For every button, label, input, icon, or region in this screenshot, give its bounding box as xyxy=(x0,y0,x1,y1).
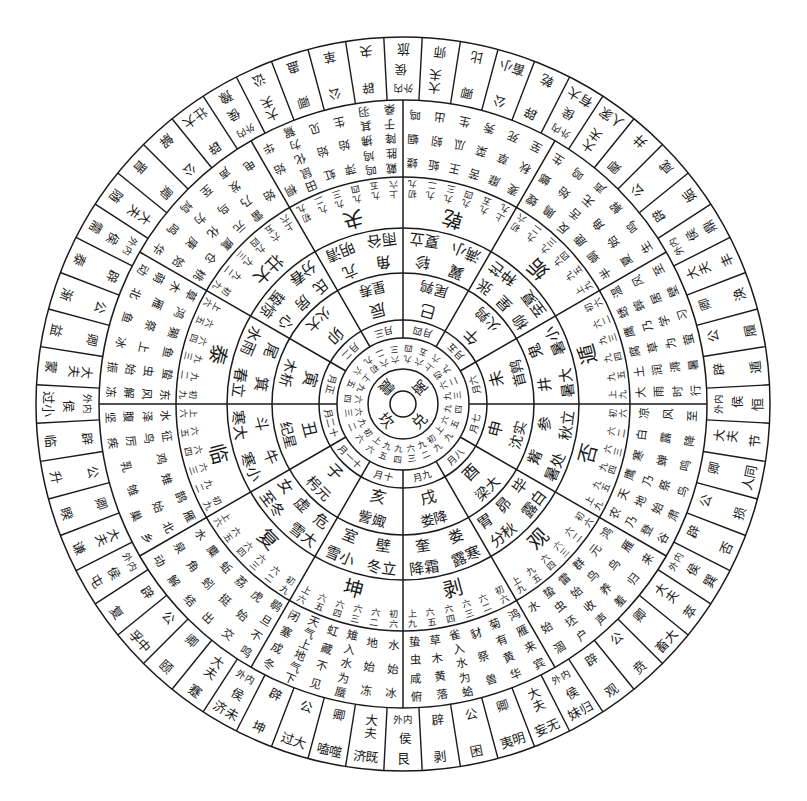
month-label: 二月 xyxy=(340,341,361,362)
hexagram-name: 坤 xyxy=(250,719,267,736)
rank-label: 卿 xyxy=(697,298,713,314)
hexagram-name: 巽 xyxy=(701,572,719,590)
rank-label: 辟 xyxy=(80,430,94,444)
solar-term-cell: 立夏 xyxy=(402,228,446,253)
line-position-label: 九三 xyxy=(443,392,465,403)
month-label: 九月 xyxy=(412,469,434,483)
inner-outer-tag: 外内 xyxy=(667,551,685,573)
rank-label: 侯 xyxy=(684,562,702,579)
hexagram-line-label: 六二 xyxy=(563,525,584,544)
earthly-branch: 丑 xyxy=(299,419,319,439)
hexagram-line-label: 六四 xyxy=(182,444,203,457)
hexagram-line-label: 六三 xyxy=(602,444,623,457)
inner-outer-tag: 外内 xyxy=(83,394,93,414)
pentad-text: 蛰虫始振 xyxy=(100,358,174,379)
solar-term-label: 谷雨 xyxy=(366,231,398,250)
sovereign-hexagram-name: 姤 xyxy=(524,255,552,283)
hexagram-line-label: 上六 xyxy=(295,584,312,606)
inner-outer-tag: 外内 xyxy=(714,394,724,414)
lunar-mansion-cell: 轸 xyxy=(412,250,435,274)
hexagram-line-label: 初九 xyxy=(278,574,296,596)
hexagram-line-label: 六四 xyxy=(331,598,346,620)
solar-term-cell: 谷雨 xyxy=(359,228,403,253)
rank-label: 公 xyxy=(706,331,721,346)
rank-label: 侯 xyxy=(397,63,410,76)
hexagram-name: 屯 xyxy=(87,572,105,590)
lunar-mansion-label: 娄 xyxy=(447,527,467,547)
month-label: 三月 xyxy=(373,324,395,338)
hexagram-line-label: 六五 xyxy=(193,314,215,330)
hexagram-name: 大壮 xyxy=(180,104,209,130)
rank-label: 大夫 xyxy=(67,363,94,378)
hexagram-name: 噬嗑 xyxy=(315,742,343,760)
pentad-text: 地始冻 xyxy=(357,637,378,710)
hexagram-line-label: 九五 xyxy=(591,478,613,494)
hexagram-line-cell: 初九 xyxy=(405,178,419,201)
hexagram-name: 讼 xyxy=(250,72,267,89)
hexagram-line-label: 九四 xyxy=(597,461,619,476)
lunar-mansion-label: 虚 xyxy=(291,495,312,516)
sovereign-hexagram-name: 坤 xyxy=(341,576,365,600)
sovereign-hexagram-name: 临 xyxy=(207,441,231,465)
line-position-label: 九四 xyxy=(391,444,402,466)
pentad-text: 白露降 xyxy=(636,429,709,450)
solar-term-label: 立冬 xyxy=(366,558,398,577)
hexagram-line-label: 初六 xyxy=(389,609,399,629)
hexagram-line-label: 六三 xyxy=(350,603,363,624)
hexagram-line-label: 六五 xyxy=(262,223,281,244)
pentad-cell: 蝼蝈鸣 xyxy=(404,102,424,176)
rank-label: 大夫 xyxy=(524,686,546,715)
hexagram-name: 泰 xyxy=(71,251,88,268)
hexagram-line-label: 六五 xyxy=(313,592,329,614)
rank-label: 大夫 xyxy=(93,525,122,547)
hexagram-line-label: 九二 xyxy=(222,263,243,282)
outer-hexagram-cell: 辟剥 xyxy=(418,707,458,770)
trigram-line-cell: 六三 xyxy=(389,340,404,366)
hexagram-name: 小过 xyxy=(42,391,55,417)
trigram-name: 坎 xyxy=(375,410,396,431)
lunar-mansion-label: 参 xyxy=(537,416,554,433)
rank-label: 辟 xyxy=(651,209,669,227)
hexagram-line-label: 九三 xyxy=(538,235,558,256)
hexagram-line-cell: 初六 xyxy=(387,608,401,631)
sovereign-hexagram-name: 复 xyxy=(254,525,282,553)
rank-label: 大夫 xyxy=(429,68,444,95)
earthly-branch: 未 xyxy=(487,369,507,389)
hexagram-line-label: 九二 xyxy=(425,180,437,201)
hexagram-line-label: 九二 xyxy=(313,194,329,216)
line-position-label: 六三 xyxy=(404,444,415,466)
hexagram-line-label: 九五 xyxy=(477,194,493,216)
jupiter-station: 寿星 xyxy=(357,279,388,300)
hexagram-line-label: 六三 xyxy=(551,539,572,559)
hexagram-line-label: 上九 xyxy=(583,495,605,512)
outer-hexagram-cell: 辟遁 xyxy=(706,349,769,389)
hexagram-line-label: 九四 xyxy=(460,188,475,210)
earthly-branch: 寅 xyxy=(299,369,319,389)
month-label: 十二月 xyxy=(322,408,339,439)
jupiter-station: 降娄 xyxy=(418,508,449,529)
hexagram-line-cell: 六四 xyxy=(329,597,348,622)
rank-label: 卿 xyxy=(630,607,648,625)
month-label: 十月 xyxy=(373,469,395,483)
hexagram-line-cell: 六四 xyxy=(186,330,211,349)
pentad-text: 土润溽暑 xyxy=(632,358,706,379)
hexagram-line-cell: 九五 xyxy=(604,368,628,384)
hexagram-name: 剥 xyxy=(433,749,447,763)
lunar-mansion-cell: 奎 xyxy=(412,534,435,558)
hexagram-line-label: 九四 xyxy=(350,183,363,204)
hexagram-name: 大有 xyxy=(566,85,595,109)
earthly-branch: 午 xyxy=(460,324,483,347)
lunar-mansion-cell: 参 xyxy=(533,413,557,436)
hexagram-line-label: 六三 xyxy=(187,461,209,476)
hexagram-name: 需 xyxy=(87,218,105,236)
hexagram-line-label: 九五 xyxy=(369,180,381,201)
rank-label: 卿 xyxy=(493,698,509,714)
month-label: 四月 xyxy=(412,324,434,338)
hexagram-line-label: 九二 xyxy=(193,478,215,494)
hexagram-line-label: 九四 xyxy=(248,235,268,256)
solar-term-cell: 大寒 xyxy=(227,403,252,447)
rank-label: 大夫 xyxy=(581,128,606,156)
lunar-mansion-label: 危 xyxy=(310,511,331,532)
rank-label: 辟 xyxy=(137,582,155,600)
hexagram-name: 涣 xyxy=(732,286,748,302)
